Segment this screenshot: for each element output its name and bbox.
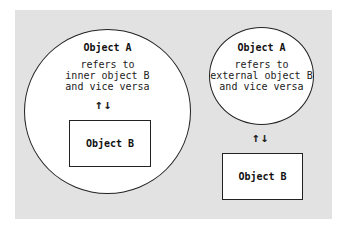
desc-line: refers to <box>25 59 190 70</box>
object-a-circle-external-case: Object A refers to external object B and… <box>209 27 314 125</box>
desc-line: and vice versa <box>25 81 190 92</box>
desc-line: inner object B <box>25 70 190 81</box>
desc-line: external object B <box>210 70 313 81</box>
desc-line: and vice versa <box>210 81 313 92</box>
bidirectional-arrow-icon: ↑↓ <box>252 130 270 145</box>
bidirectional-arrow-icon: ↑↓ <box>95 97 113 112</box>
object-a-circle-inner-case: Object A refers to inner object B and vi… <box>24 29 191 194</box>
object-a-description: refers to external object B and vice ver… <box>210 59 313 92</box>
desc-line: refers to <box>210 59 313 70</box>
object-a-description: refers to inner object B and vice versa <box>25 59 190 92</box>
object-a-label: Object A <box>210 42 313 53</box>
object-b-box-inner: Object B <box>69 120 151 167</box>
object-b-label: Object B <box>86 138 134 149</box>
object-a-label: Object A <box>25 42 190 53</box>
object-b-box-external: Object B <box>222 153 303 200</box>
object-b-label: Object B <box>238 171 286 182</box>
